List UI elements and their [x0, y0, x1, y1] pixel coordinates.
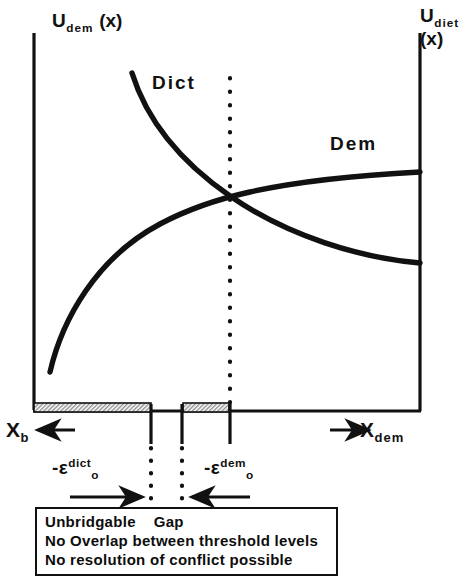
dict-threshold-bar: [34, 403, 151, 412]
callout-line-2: No Overlap between threshold levels: [45, 531, 330, 550]
x-axis-left-label: Xb: [6, 418, 29, 445]
y-axis-right-title: Udiet(x): [420, 6, 459, 49]
y-axis-left-title: Udem (x): [52, 10, 122, 34]
dem-threshold-bar: [183, 403, 229, 412]
callout-line-3: No resolution of conflict possible: [45, 550, 330, 569]
dict-curve: [132, 73, 420, 263]
dict-curve-label: Dict: [152, 72, 196, 94]
dem-curve-label: Dem: [330, 133, 377, 155]
plot-frame: [33, 33, 421, 411]
callout-box: Unbridgable Gap No Overlap between thres…: [35, 507, 338, 576]
epsilon-dict-label: -εdicto: [52, 456, 99, 481]
shaded-bars: [34, 403, 229, 412]
x-axis-right-label: Xdem: [360, 418, 404, 445]
epsilon-dem-label: -εdemo: [204, 456, 254, 481]
callout-line-1: Unbridgable Gap: [45, 512, 330, 531]
unbridgable-gap-figure: [0, 0, 468, 586]
